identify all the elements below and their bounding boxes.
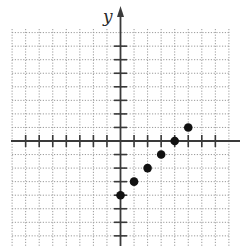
y-axis-label: y (102, 6, 113, 26)
data-point (170, 137, 179, 146)
axes (11, 6, 240, 246)
data-points (116, 123, 192, 199)
data-point (130, 177, 139, 186)
y-axis-arrow-icon (117, 6, 124, 17)
data-point (143, 164, 152, 173)
data-point (184, 123, 193, 132)
data-point (157, 150, 166, 159)
scatter-plot: y (0, 0, 240, 246)
data-point (116, 191, 125, 200)
